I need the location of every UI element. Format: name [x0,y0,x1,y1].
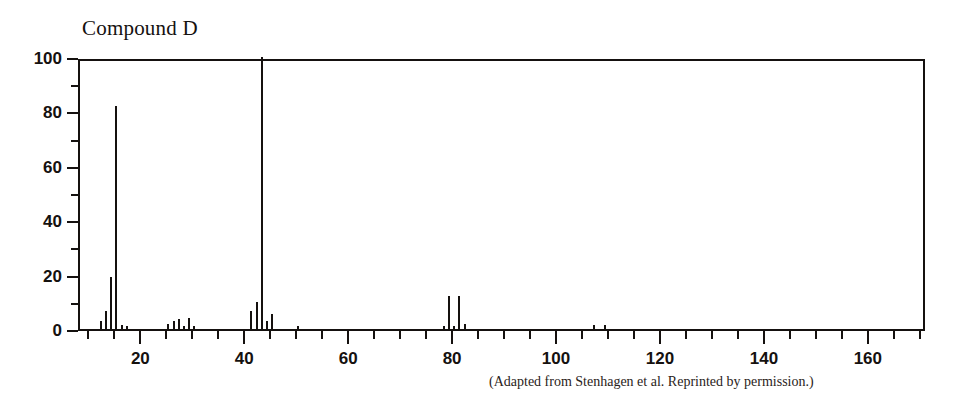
peak-bar [126,326,128,329]
x-axis-tick-major [451,331,453,344]
x-axis-tick-minor [321,331,323,339]
x-axis-tick-label: 140 [750,349,778,369]
peak-bar [121,325,123,329]
y-axis-tick-major [67,276,78,278]
x-axis-tick-label: 80 [443,349,462,369]
y-axis-tick-label: 60 [43,158,62,178]
x-axis-tick-minor [789,331,791,339]
x-axis-tick-minor [919,331,921,339]
x-axis-tick-minor [841,331,843,339]
x-axis-tick-minor [425,331,427,339]
y-axis-tick-minor [71,248,78,250]
peak-bar [297,326,299,329]
peak-bar [256,302,258,329]
x-axis-tick-minor [217,331,219,339]
x-axis-tick-minor [893,331,895,339]
peak-bar [443,326,445,329]
x-axis-tick-minor [269,331,271,339]
x-axis-tick-minor [529,331,531,339]
x-axis-tick-minor [399,331,401,339]
x-axis-tick-label: 20 [131,349,150,369]
peak-bar [261,57,263,329]
y-axis-tick-label: 80 [43,103,62,123]
x-axis-tick-major [763,331,765,344]
figure-caption: (Adapted from Stenhagen et al. Reprinted… [489,374,814,390]
x-axis-tick-minor [737,331,739,339]
y-axis-tick-major [67,112,78,114]
peak-bar [193,326,195,329]
x-axis-tick-minor [191,331,193,339]
peak-bar [448,296,450,329]
peak-bar [453,326,455,329]
x-axis-tick-major [347,331,349,344]
peak-series [80,61,923,329]
peak-bar [266,321,268,329]
peak-bar [178,319,180,329]
peak-bar [464,324,466,329]
x-axis-tick-minor [711,331,713,339]
x-axis-tick-minor [113,331,115,339]
peak-bar [115,106,117,329]
x-axis-tick-label: 120 [646,349,674,369]
peak-bar [250,311,252,329]
peak-bar [105,311,107,329]
x-axis-tick-major [867,331,869,344]
peak-bar [100,321,102,329]
peak-bar [110,277,112,329]
y-axis-tick-minor [71,85,78,87]
y-axis-tick-major [67,221,78,223]
x-axis-tick-label: 40 [235,349,254,369]
y-axis-tick-major [67,58,78,60]
x-axis-tick-minor [581,331,583,339]
x-axis-tick-label: 60 [339,349,358,369]
x-axis-tick-minor [373,331,375,339]
x-axis: 20406080100120140160 [0,331,967,419]
mass-spectrum-figure: Compound D 020406080100 2040608010012014… [0,0,967,419]
peak-bar [271,314,273,329]
peak-bar [188,318,190,329]
peak-bar [458,296,460,329]
x-axis-tick-minor [815,331,817,339]
peak-bar [167,324,169,329]
x-axis-tick-label: 160 [854,349,882,369]
x-axis-tick-minor [607,331,609,339]
y-axis-tick-major [67,167,78,169]
x-axis-tick-major [243,331,245,344]
x-axis-tick-minor [477,331,479,339]
page-title: Compound D [82,16,198,41]
y-axis-tick-label: 40 [43,212,62,232]
x-axis-tick-minor [685,331,687,339]
peak-bar [593,325,595,329]
x-axis-tick-minor [633,331,635,339]
x-axis-tick-minor [295,331,297,339]
x-axis-tick-minor [165,331,167,339]
y-axis-tick-label: 20 [43,267,62,287]
y-axis-tick-label: 100 [34,49,62,69]
plot-area [78,59,925,331]
x-axis-tick-major [555,331,557,344]
y-axis-tick-minor [71,140,78,142]
x-axis-tick-minor [503,331,505,339]
x-axis-tick-major [139,331,141,344]
x-axis-tick-minor [87,331,89,339]
y-axis-tick-minor [71,303,78,305]
y-axis-tick-minor [71,194,78,196]
x-axis-tick-major [659,331,661,344]
x-axis-tick-label: 100 [542,349,570,369]
peak-bar [604,325,606,329]
peak-bar [173,321,175,329]
peak-bar [183,326,185,329]
